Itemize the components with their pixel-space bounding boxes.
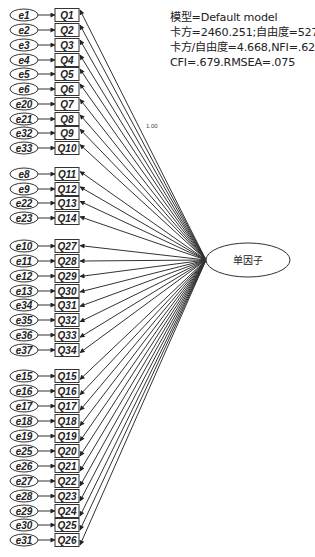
- error-label: e12: [16, 271, 33, 282]
- loading-path-q3[interactable]: [80, 40, 206, 260]
- indicator-row: e35Q32: [10, 314, 79, 327]
- indicator-row: e2Q2: [10, 24, 79, 37]
- error-label: e16: [16, 386, 33, 397]
- observed-label: Q5: [60, 69, 74, 80]
- observed-label: Q16: [58, 386, 77, 397]
- indicator-row: e12Q29: [10, 270, 79, 283]
- observed-label: Q8: [60, 114, 74, 125]
- loading-path-q7[interactable]: [80, 99, 206, 260]
- observed-label: Q24: [58, 506, 77, 517]
- loading-path-q16[interactable]: [80, 260, 206, 395]
- observed-label: Q2: [60, 25, 74, 36]
- error-label: e22: [16, 198, 33, 209]
- error-label: e20: [16, 99, 33, 110]
- fit-chi-df-nfi: 卡方/自由度=4.668,NFI=.627: [170, 40, 315, 55]
- indicator-row: e26Q21: [10, 460, 79, 473]
- error-label: e35: [16, 315, 33, 326]
- observed-label: Q30: [58, 286, 77, 297]
- observed-label: Q6: [60, 84, 74, 95]
- fit-model-name: 模型=Default model: [170, 10, 315, 25]
- observed-label: Q10: [58, 143, 77, 154]
- loading-path-q6[interactable]: [80, 84, 206, 260]
- indicator-row: e23Q14: [10, 212, 79, 225]
- observed-label: Q19: [58, 431, 77, 442]
- loading-path-q4[interactable]: [80, 55, 206, 260]
- indicator-row: e1Q1: [10, 9, 79, 22]
- fit-cfi-rmsea: CFI=.679.RMSEA=.075: [170, 55, 315, 70]
- loading-path-q22[interactable]: [80, 260, 206, 486]
- error-label: e9: [18, 184, 30, 195]
- observed-label: Q31: [58, 300, 77, 311]
- observed-label: Q1: [60, 10, 74, 21]
- loading-path-q18[interactable]: [80, 260, 206, 426]
- loading-path-q10[interactable]: [80, 145, 206, 260]
- error-label: e11: [16, 256, 32, 267]
- observed-label: Q21: [58, 461, 77, 472]
- loading-path-q28[interactable]: [80, 260, 206, 261]
- observed-label: Q4: [60, 55, 74, 66]
- observed-label: Q12: [58, 184, 77, 195]
- loading-path-q25[interactable]: [80, 260, 206, 530]
- loading-path-q15[interactable]: [80, 260, 206, 379]
- observed-label: Q9: [60, 128, 74, 139]
- indicator-row: e6Q6: [10, 83, 79, 96]
- indicator-row: e18Q18: [10, 415, 79, 428]
- error-label: e34: [16, 300, 33, 311]
- latent-factor[interactable]: 单因子: [206, 243, 290, 277]
- factor-label: 单因子: [233, 255, 263, 266]
- indicator-row: e10Q27: [10, 240, 79, 253]
- loading-path-q21[interactable]: [80, 260, 206, 471]
- indicator-row: e15Q15: [10, 370, 79, 383]
- indicator-row: e37Q34: [10, 344, 79, 357]
- loading-path-q20[interactable]: [80, 260, 206, 456]
- indicator-row: e16Q16: [10, 385, 79, 398]
- observed-label: Q28: [58, 256, 77, 267]
- error-label: e17: [16, 401, 33, 412]
- observed-label: Q11: [58, 169, 77, 180]
- indicator-row: e32Q9: [10, 127, 79, 140]
- observed-label: Q18: [58, 416, 77, 427]
- indicator-row: e9Q12: [10, 183, 79, 196]
- indicator-row: e21Q8: [10, 113, 79, 126]
- error-label: e1: [18, 10, 30, 21]
- indicator-row: e17Q17: [10, 400, 79, 413]
- indicator-row: e31Q26: [10, 534, 79, 547]
- error-label: e3: [18, 40, 30, 51]
- indicator-row: e30Q25: [10, 519, 79, 532]
- error-label: e25: [16, 446, 33, 457]
- error-label: e23: [16, 213, 33, 224]
- error-label: e18: [16, 416, 33, 427]
- error-label: e13: [16, 286, 33, 297]
- observed-label: Q3: [60, 40, 74, 51]
- indicator-row: e33Q10: [10, 142, 79, 155]
- loading-path-q5[interactable]: [80, 69, 206, 260]
- fixed-loading-label: 1.00: [146, 123, 158, 129]
- error-label: e28: [16, 491, 33, 502]
- error-label: e6: [18, 84, 30, 95]
- error-label: e29: [16, 506, 33, 517]
- loading-path-q26[interactable]: [80, 260, 206, 545]
- error-label: e31: [16, 535, 33, 546]
- model-fit-statistics: 模型=Default model 卡方=2460.251;自由度=527 卡方/…: [170, 10, 315, 70]
- error-label: e19: [16, 431, 33, 442]
- error-label: e4: [18, 55, 30, 66]
- indicator-row: e19Q19: [10, 430, 79, 443]
- observed-label: Q17: [58, 401, 77, 412]
- indicator-row: e34Q31: [10, 299, 79, 312]
- observed-label: Q34: [58, 345, 77, 356]
- indicator-row: e29Q24: [10, 505, 79, 518]
- loading-path-q9[interactable]: [80, 129, 206, 260]
- indicator-row: e8Q11: [10, 168, 79, 181]
- loading-path-q27[interactable]: [80, 246, 206, 260]
- observed-label: Q32: [58, 315, 77, 326]
- indicator-row: e5Q5: [10, 68, 79, 81]
- observed-label: Q27: [58, 241, 77, 252]
- observed-label: Q15: [58, 371, 77, 382]
- observed-label: Q20: [58, 446, 77, 457]
- observed-label: Q7: [60, 99, 74, 110]
- error-label: e33: [16, 143, 33, 154]
- loading-path-q23[interactable]: [80, 260, 206, 501]
- error-label: e27: [16, 476, 33, 487]
- error-label: e30: [16, 520, 33, 531]
- loading-path-q11[interactable]: [80, 171, 206, 260]
